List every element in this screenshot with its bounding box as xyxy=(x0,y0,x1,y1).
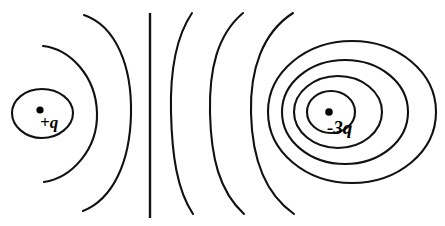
equipotential-left-arc-2 xyxy=(83,15,131,211)
equipotential-diagram: +q -3q xyxy=(0,0,445,226)
charge-label-negative: -3q xyxy=(327,117,353,138)
charge-dot-negative xyxy=(325,108,333,116)
equipotential-right-arc-3 xyxy=(251,13,294,214)
equipotential-right-arc-2 xyxy=(210,13,244,214)
equipotential-right-arc-1 xyxy=(171,13,193,214)
equipotential-canvas: +q -3q xyxy=(0,0,445,226)
charge-label-positive: +q xyxy=(40,113,59,132)
